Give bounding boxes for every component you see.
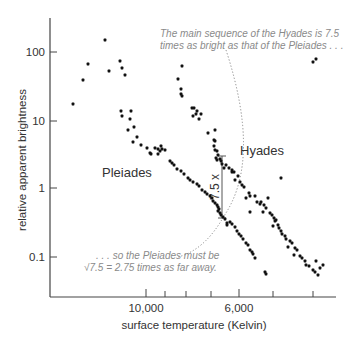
- data-point: [254, 195, 257, 198]
- data-point: [274, 220, 277, 223]
- data-point: [293, 254, 296, 257]
- annotation-top-line2: times as bright as that of the Pleiades …: [160, 40, 343, 51]
- data-point: [146, 147, 149, 150]
- data-point: [267, 197, 270, 200]
- data-point: [121, 115, 124, 118]
- data-point: [228, 167, 231, 170]
- data-point: [277, 224, 280, 227]
- data-point: [265, 273, 268, 276]
- data-point: [223, 167, 226, 170]
- data-point: [280, 177, 283, 180]
- data-point: [196, 110, 199, 113]
- data-point: [108, 70, 111, 73]
- data-point: [200, 113, 203, 116]
- data-point: [213, 145, 216, 148]
- data-point: [249, 211, 252, 214]
- y-tick-label-100: 100: [26, 46, 45, 58]
- data-point: [104, 39, 107, 42]
- y-axis-title: relative apparent brightness: [16, 89, 28, 231]
- data-point: [157, 153, 160, 156]
- x-tick-label-10000: 10,000: [128, 302, 163, 314]
- data-point: [177, 78, 180, 81]
- data-point: [247, 244, 250, 247]
- data-point: [254, 257, 257, 260]
- x-ticks: [146, 289, 313, 297]
- data-point: [140, 144, 143, 147]
- data-point: [271, 214, 274, 217]
- data-point: [242, 238, 245, 241]
- data-point: [82, 79, 85, 82]
- data-point: [154, 147, 157, 150]
- data-point: [312, 61, 315, 64]
- data-point: [252, 253, 255, 256]
- annotation-bottom-line2: √7.5 = 2.75 times as far away.: [84, 262, 217, 273]
- y-tick-label-1: 1: [39, 182, 45, 194]
- data-point: [192, 115, 195, 118]
- data-point: [133, 126, 136, 129]
- data-point: [260, 201, 263, 204]
- data-point: [120, 110, 123, 113]
- data-point: [124, 74, 127, 77]
- pleiades-points: [72, 39, 268, 276]
- data-point: [216, 150, 219, 153]
- data-point: [164, 149, 167, 152]
- data-point: [256, 201, 259, 204]
- data-point: [236, 230, 239, 233]
- data-point: [225, 164, 228, 167]
- data-point: [304, 260, 307, 263]
- data-point: [308, 265, 311, 268]
- y-ticks: [50, 52, 57, 257]
- data-point: [262, 211, 265, 214]
- data-point: [195, 113, 198, 116]
- data-point: [226, 224, 229, 227]
- data-point: [221, 163, 224, 166]
- data-point: [234, 226, 237, 229]
- data-point: [181, 65, 184, 68]
- data-point: [72, 103, 75, 106]
- data-point: [87, 63, 90, 66]
- data-point: [319, 267, 322, 270]
- data-point: [301, 257, 304, 260]
- data-point: [121, 67, 124, 70]
- data-point: [272, 225, 275, 228]
- data-point: [220, 160, 223, 163]
- data-point: [119, 60, 122, 63]
- data-point: [180, 170, 183, 173]
- data-point: [285, 238, 288, 241]
- data-point: [130, 110, 133, 113]
- data-point: [315, 260, 318, 263]
- data-point: [237, 175, 240, 178]
- data-point: [198, 185, 201, 188]
- data-point: [322, 264, 325, 267]
- data-point: [281, 233, 284, 236]
- data-point: [132, 141, 135, 144]
- data-point: [239, 181, 242, 184]
- hyades-points: [177, 58, 325, 277]
- data-point: [216, 159, 219, 162]
- data-point: [211, 197, 214, 200]
- hyades-label: Hyades: [240, 143, 285, 158]
- data-point: [249, 195, 252, 198]
- data-point: [198, 118, 201, 121]
- data-point: [263, 204, 266, 207]
- data-point: [207, 132, 210, 135]
- hr-diagram-chart: 100 10 1 0.1 relative apparent brightnes…: [0, 0, 352, 344]
- x-axis-title: surface temperature (Kelvin): [121, 319, 266, 331]
- data-point: [206, 193, 209, 196]
- data-point: [280, 230, 283, 233]
- data-point: [192, 181, 195, 184]
- data-point: [234, 179, 237, 182]
- data-point: [315, 58, 318, 61]
- data-point: [314, 271, 317, 274]
- data-point: [181, 95, 184, 98]
- data-point: [173, 164, 176, 167]
- data-point: [278, 227, 281, 230]
- data-point: [240, 235, 243, 238]
- data-point: [214, 129, 217, 132]
- data-point: [160, 145, 163, 148]
- x-tick-label-6000: 6,000: [225, 302, 254, 314]
- data-point: [231, 223, 234, 226]
- data-point: [265, 207, 268, 210]
- y-tick-label-10: 10: [32, 115, 45, 127]
- data-point: [248, 192, 251, 195]
